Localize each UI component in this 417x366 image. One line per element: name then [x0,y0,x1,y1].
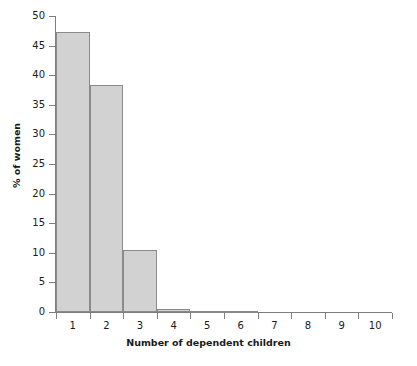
y-axis-tick [49,16,55,17]
histogram-chart: 05101520253035404550 12345678910 % of wo… [0,0,417,366]
y-axis-title: % of women [11,96,22,216]
y-axis-tick [49,46,55,47]
y-axis-tick [49,75,55,76]
histogram-bar [190,311,224,313]
x-axis-tick-label: 8 [291,320,325,331]
x-axis-tick [358,313,359,319]
x-axis-tick [325,313,326,319]
y-axis-tick-label: 5 [5,277,45,287]
y-axis-tick-label: 40 [5,70,45,80]
x-axis-tick-label: 10 [358,320,392,331]
y-axis-tick-label: 10 [5,248,45,258]
histogram-bar [123,250,157,312]
histogram-bar [56,32,90,312]
x-axis-tick [90,313,91,319]
x-axis-tick [392,313,393,319]
x-axis-tick [157,313,158,319]
x-axis-tick [123,313,124,319]
x-axis-tick [224,313,225,319]
y-axis-tick [49,194,55,195]
y-axis-tick-label: 50 [5,11,45,21]
x-axis-tick-label: 7 [257,320,291,331]
x-axis-tick [190,313,191,319]
x-axis-tick-label: 5 [190,320,224,331]
x-axis-tick-label: 6 [224,320,258,331]
chart-title [0,0,417,2]
y-axis-tick [49,223,55,224]
x-axis-tick-label: 3 [123,320,157,331]
x-axis-tick-label: 4 [157,320,191,331]
histogram-bar [224,311,258,313]
x-axis-tick-label: 1 [56,320,90,331]
x-axis-tick-label: 9 [325,320,359,331]
y-axis-tick [49,253,55,254]
x-axis-tick-label: 2 [89,320,123,331]
y-axis-tick [49,164,55,165]
x-axis-tick [291,313,292,319]
x-axis-tick [56,313,57,319]
x-axis-tick [258,313,259,319]
y-axis-tick [49,282,55,283]
y-axis-tick [49,134,55,135]
y-axis-tick-label: 0 [5,307,45,317]
x-axis-title: Number of dependent children [0,337,417,348]
histogram-bar [90,85,124,312]
y-axis-tick [49,105,55,106]
y-axis-tick-label: 15 [5,218,45,228]
y-axis-tick [49,312,55,313]
y-axis-tick-label: 45 [5,41,45,51]
histogram-bar [157,309,191,312]
